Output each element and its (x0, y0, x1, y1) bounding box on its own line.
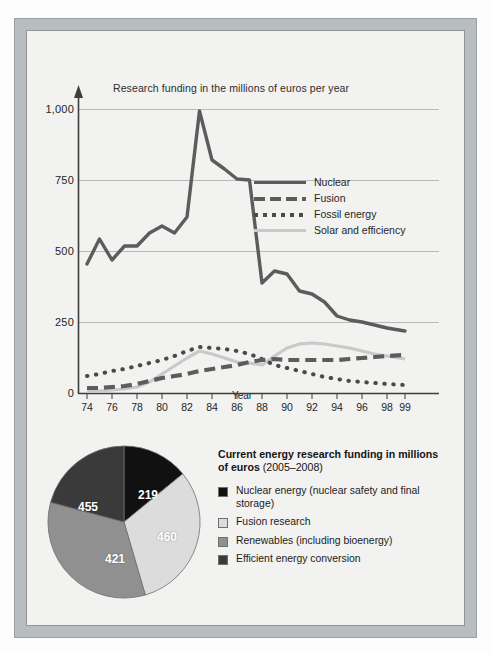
pie-legend-item-renewables: Renewables (including bioenergy) (218, 535, 450, 548)
pie-value-efficient-energy-conversion: 455 (78, 500, 98, 514)
pie-legend-label-renewables: Renewables (including bioenergy) (236, 535, 393, 548)
legend-key-light-solid-icon (254, 223, 306, 237)
legend-key-solid-icon (254, 175, 306, 189)
legend-item-nuclear: Nuclear (254, 174, 405, 190)
pie-legend-label-efficient-energy-conversion: Efficient energy conversion (236, 553, 361, 566)
pie-chart-heading-bold: Current energy research funding in milli… (218, 448, 438, 473)
legend-label-solar-and-efficiency: Solar and efficiency (314, 224, 405, 236)
legend-item-fossil-energy: Fossil energy (254, 206, 405, 222)
pie-legend-item-efficient-energy-conversion: Efficient energy conversion (218, 553, 450, 566)
pie-legend-label-nuclear-energy: Nuclear energy (nuclear safety and final… (236, 485, 450, 510)
legend-label-nuclear: Nuclear (314, 176, 350, 188)
series-fossil-energy (87, 347, 405, 385)
legend-item-fusion: Fusion (254, 190, 405, 206)
pie-chart-heading: Current energy research funding in milli… (218, 448, 450, 474)
legend-label-fossil-energy: Fossil energy (314, 208, 376, 220)
pie-legend-item-fusion-research: Fusion research (218, 516, 450, 529)
figure-root: Research funding in the millions of euro… (0, 0, 491, 654)
legend-item-solar-and-efficiency: Solar and efficiency (254, 222, 405, 238)
pie-legend-label-fusion-research: Fusion research (236, 516, 311, 529)
legend-key-dotted-icon (254, 207, 306, 221)
pie-value-nuclear-energy: 219 (138, 488, 158, 502)
pie-value-fusion-research: 460 (157, 530, 177, 544)
pie-value-renewables: 421 (105, 552, 125, 566)
pie-chart-heading-period: (2005–2008) (260, 461, 323, 473)
pie-legend-swatch-efficient-energy-conversion (218, 555, 228, 565)
pie-legend-item-nuclear-energy: Nuclear energy (nuclear safety and final… (218, 485, 450, 510)
series-solar-and-efficiency (87, 343, 405, 391)
line-chart: Research funding in the millions of euro… (30, 56, 454, 408)
pie-chart: 219 460 421 455 (40, 440, 212, 606)
pie-legend-swatch-renewables (218, 537, 228, 547)
legend-key-dashed-icon (254, 191, 306, 205)
line-chart-legend: Nuclear Fusion Fossil energy Solar and e… (254, 174, 405, 238)
legend-label-fusion: Fusion (314, 192, 346, 204)
pie-chart-info: Current energy research funding in milli… (218, 448, 450, 572)
pie-legend-swatch-fusion-research (218, 518, 228, 528)
pie-chart-svg (40, 440, 212, 606)
pie-legend-swatch-nuclear-energy (218, 487, 228, 497)
